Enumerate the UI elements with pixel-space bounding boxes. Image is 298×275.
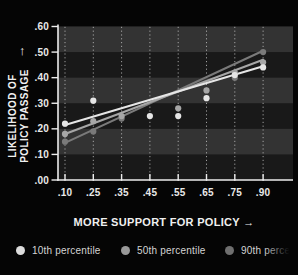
data-point bbox=[147, 113, 153, 119]
y-tick-label: .60 bbox=[34, 21, 49, 32]
data-point bbox=[90, 128, 96, 134]
data-point bbox=[119, 113, 125, 119]
y-axis-label-line1: LIKELIHOOD OF bbox=[7, 74, 18, 158]
data-point bbox=[260, 49, 266, 55]
legend-dot-10th-icon bbox=[16, 246, 25, 255]
y-tick-label: .00 bbox=[34, 175, 49, 186]
chart-panel: .10.25.35.45.55.65.75.90.00.10.20.30.40.… bbox=[0, 0, 298, 275]
x-tick-label: .90 bbox=[256, 187, 271, 198]
legend: 10th percentile 50th percentile 90th per… bbox=[0, 245, 298, 263]
x-tick-label: .75 bbox=[228, 187, 243, 198]
legend-label: 90th percentile bbox=[241, 245, 298, 256]
x-tick-label: .65 bbox=[199, 187, 214, 198]
legend-item-90th-percentile: 90th percentile bbox=[225, 245, 298, 256]
data-point bbox=[260, 64, 266, 70]
data-point bbox=[175, 113, 181, 119]
legend-item-50th-percentile: 50th percentile bbox=[121, 245, 206, 256]
legend-label: 10th percentile bbox=[32, 245, 101, 256]
y-axis-label: LIKELIHOOD OF POLICY PASSAGE bbox=[7, 60, 33, 172]
data-point bbox=[62, 121, 68, 127]
y-tick-label: .50 bbox=[34, 47, 49, 58]
data-point bbox=[90, 118, 96, 124]
data-point bbox=[203, 95, 209, 101]
legend-label: 50th percentile bbox=[137, 245, 206, 256]
chart-svg: .10.25.35.45.55.65.75.90.00.10.20.30.40.… bbox=[0, 0, 298, 205]
data-point bbox=[175, 105, 181, 111]
legend-item-10th-percentile: 10th percentile bbox=[16, 245, 101, 256]
x-tick-label: .25 bbox=[86, 187, 101, 198]
data-point bbox=[62, 131, 68, 137]
legend-dot-90th-icon bbox=[225, 246, 234, 255]
x-tick-label: .45 bbox=[143, 187, 158, 198]
data-point bbox=[62, 139, 68, 145]
y-tick-label: .40 bbox=[34, 72, 49, 83]
data-point bbox=[203, 87, 209, 93]
x-tick-label: .55 bbox=[171, 187, 186, 198]
x-axis-label: MORE SUPPORT FOR POLICY → bbox=[65, 216, 263, 228]
y-tick-label: .20 bbox=[34, 123, 49, 134]
y-tick-label: .30 bbox=[34, 98, 49, 109]
data-point bbox=[90, 98, 96, 104]
y-axis-arrow-icon: ↑ bbox=[19, 43, 26, 58]
y-axis-label-line2: POLICY PASSAGE bbox=[19, 69, 30, 163]
data-point bbox=[232, 72, 238, 78]
legend-dot-50th-icon bbox=[121, 246, 130, 255]
x-tick-label: .10 bbox=[58, 187, 73, 198]
y-tick-label: .10 bbox=[34, 149, 49, 160]
x-tick-label: .35 bbox=[114, 187, 129, 198]
